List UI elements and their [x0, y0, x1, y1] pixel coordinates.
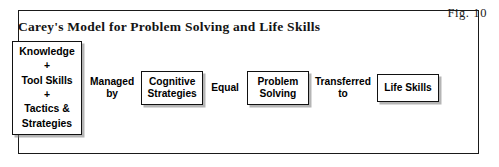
- figure-root: Fig. 10 Carey's Model for Problem Solvin…: [0, 0, 499, 167]
- node-problem-solving: Problem Solving: [247, 71, 309, 105]
- node-cognitive-strategies: Cognitive Strategies: [141, 71, 203, 105]
- connector-transferred-to: Transferred to: [309, 76, 377, 100]
- figure-title: Carey's Model for Problem Solving and Li…: [18, 19, 320, 35]
- figure-number-label: Fig. 10: [447, 6, 487, 21]
- node-inputs: Knowledge + Tool Skills + Tactics & Stra…: [12, 41, 82, 135]
- connector-equal: Equal: [203, 82, 247, 94]
- connector-managed-by: Managed by: [82, 76, 141, 100]
- flow-diagram: Knowledge + Tool Skills + Tactics & Stra…: [12, 40, 493, 136]
- node-life-skills: Life Skills: [377, 74, 439, 102]
